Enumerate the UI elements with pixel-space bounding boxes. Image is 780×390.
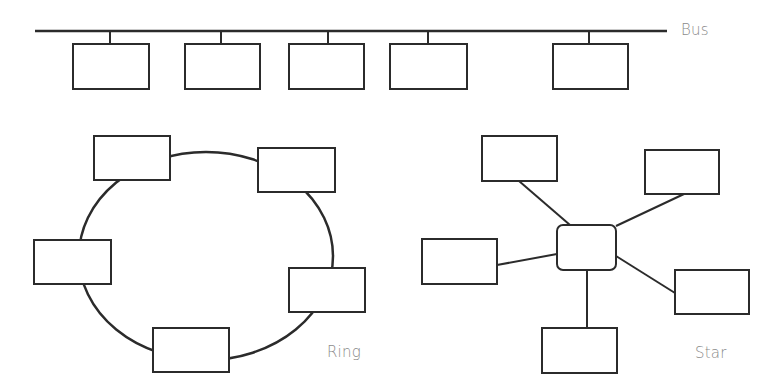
bus-label: Bus [681,21,709,39]
ring-node [258,148,335,192]
ring-label: Ring [327,343,361,361]
star-node [422,239,497,284]
ring-node [94,136,170,180]
bus-node [289,44,364,89]
bus-node [73,44,149,89]
star-link-line [616,194,684,226]
star-node [645,150,719,194]
bus-topology [35,31,667,89]
star-node [482,136,557,181]
bus-node [390,44,467,89]
ring-node [289,268,365,312]
star-topology [422,136,749,373]
bus-node [553,44,628,89]
star-hub [557,225,616,270]
bus-node [185,44,260,89]
ring-node [34,240,111,284]
star-node [542,328,617,373]
star-label: Star [695,344,727,362]
star-link-line [519,181,570,225]
star-link-line [497,254,557,265]
topology-diagram [0,0,780,390]
star-node [675,270,749,314]
star-link-line [616,256,675,293]
ring-topology [34,136,365,372]
ring-node [153,328,229,372]
